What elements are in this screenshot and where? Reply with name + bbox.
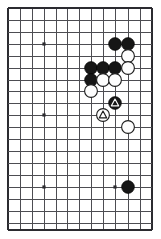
black-stone-disc [109, 62, 122, 75]
black-stone-disc [109, 38, 122, 51]
star-point [42, 113, 45, 116]
black-stone-disc [97, 62, 110, 75]
black-stone [109, 38, 122, 51]
stones-layer [85, 38, 135, 194]
white-stone-disc [97, 74, 110, 87]
white-stone-disc [122, 50, 135, 63]
white-stone [97, 74, 110, 87]
black-stone-disc [122, 181, 135, 194]
white-stone [122, 62, 135, 75]
white-stone [122, 50, 135, 63]
white-stone-disc [109, 74, 122, 87]
black-stone [122, 181, 135, 194]
go-board-diagram [0, 0, 161, 239]
star-point [42, 185, 45, 188]
black-stone-disc [85, 62, 98, 75]
star-point [113, 185, 116, 188]
black-stone-disc [122, 38, 135, 51]
black-stone [109, 62, 122, 75]
black-stone [85, 62, 98, 75]
white-stone-disc [122, 62, 135, 75]
black-stone [109, 97, 122, 110]
white-stone-disc [122, 121, 135, 134]
go-board-canvas [0, 0, 161, 239]
black-stone [122, 38, 135, 51]
white-stone [97, 109, 110, 122]
black-stone [97, 62, 110, 75]
white-stone [85, 85, 98, 98]
star-point [42, 42, 45, 45]
white-stone [109, 74, 122, 87]
white-stone [122, 121, 135, 134]
white-stone-disc [85, 85, 98, 98]
